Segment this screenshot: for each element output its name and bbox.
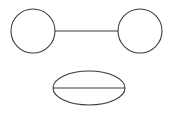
canvas-background <box>0 0 175 114</box>
diagram-canvas <box>0 0 175 114</box>
shape-diagram <box>0 0 175 114</box>
